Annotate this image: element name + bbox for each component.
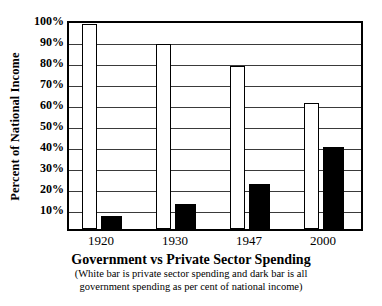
plot-inner: [69, 23, 361, 229]
caption-line-1: (White bar is private sector spending an…: [0, 268, 382, 281]
x-tick-label: 2000: [310, 233, 336, 249]
y-tick-label: 60%: [40, 98, 64, 113]
chart-title: Government vs Private Sector Spending: [0, 252, 382, 268]
bar-1947-government: [249, 184, 270, 229]
plot-area: [67, 21, 363, 231]
y-tick-label: 100%: [34, 14, 64, 29]
bar-2000-government: [323, 147, 344, 229]
bar-1920-government: [101, 216, 122, 229]
gridline: [69, 65, 361, 66]
y-tick-label: 30%: [40, 161, 64, 176]
caption-block: Government vs Private Sector Spending (W…: [0, 252, 382, 293]
bar-1920-private: [82, 24, 97, 229]
gridline: [69, 86, 361, 87]
gridline: [69, 44, 361, 45]
y-tick-label: 50%: [40, 119, 64, 134]
chart-figure: Percent of National Income 10%20%30%40%5…: [0, 0, 382, 306]
caption-line-2: government spending as per cent of natio…: [0, 281, 382, 294]
bar-1947-private: [230, 66, 245, 229]
bar-1930-private: [156, 44, 171, 229]
y-tick-label: 90%: [40, 35, 64, 50]
y-axis-tick-labels: 10%20%30%40%50%60%70%80%90%100%: [26, 21, 67, 231]
x-tick-label: 1930: [162, 233, 188, 249]
x-tick-label: 1947: [236, 233, 262, 249]
x-tick-label: 1920: [88, 233, 114, 249]
x-axis-tick-labels: 1920193019472000: [67, 233, 363, 251]
y-tick-label: 20%: [40, 182, 64, 197]
bar-1930-government: [175, 204, 196, 229]
y-tick-label: 40%: [40, 140, 64, 155]
y-tick-label: 70%: [40, 77, 64, 92]
y-tick-label: 80%: [40, 56, 64, 71]
y-axis-label: Percent of National Income: [2, 21, 28, 231]
bar-2000-private: [304, 103, 319, 229]
y-tick-label: 10%: [40, 203, 64, 218]
y-axis-label-text: Percent of National Income: [8, 52, 23, 201]
